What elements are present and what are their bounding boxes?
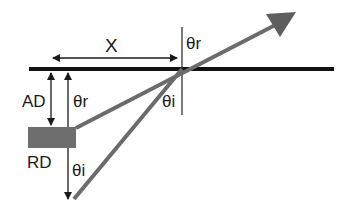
label-theta-r-left: θr — [73, 92, 88, 111]
label-theta-i-left: θi — [72, 161, 85, 180]
label-theta-i-center: θi — [162, 92, 175, 111]
incident-ray — [74, 69, 182, 199]
label-rd: RD — [27, 153, 52, 172]
ray-arrowhead-icon — [266, 12, 296, 37]
label-x: X — [105, 35, 118, 56]
label-ad: AD — [22, 92, 46, 111]
source-box — [28, 127, 76, 148]
reflection-diagram: X AD θr θi θr RD θi — [0, 0, 351, 211]
label-theta-r-top: θr — [186, 34, 201, 53]
